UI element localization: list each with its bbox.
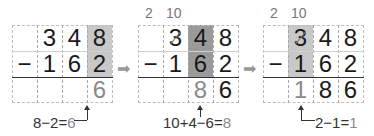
equation-expression: 8−2= bbox=[33, 114, 67, 131]
step3-equation: 2−1=1 bbox=[315, 114, 358, 131]
step2-carry-tens: 10 bbox=[166, 5, 182, 21]
equation-result: 1 bbox=[349, 114, 357, 131]
step3-carry-tens: 10 bbox=[291, 5, 307, 21]
grid-row-divider bbox=[138, 51, 239, 52]
grid-row-divider bbox=[263, 51, 364, 52]
arrow-right-icon: ➡ bbox=[117, 59, 130, 78]
step3-carry-hundreds: 2 bbox=[270, 5, 278, 21]
grid-divider bbox=[338, 25, 339, 103]
connector-line bbox=[301, 109, 315, 121]
subtraction-rule bbox=[138, 77, 239, 78]
grid-divider bbox=[87, 25, 88, 103]
grid-divider bbox=[62, 25, 63, 103]
connector-line bbox=[87, 109, 88, 120]
subtraction-rule bbox=[263, 77, 364, 78]
arrow-right-icon: ➡ bbox=[243, 59, 256, 78]
grid-divider bbox=[163, 25, 164, 103]
grid-divider bbox=[288, 25, 289, 103]
equation-expression: 2−1= bbox=[315, 114, 349, 131]
grid-row-divider bbox=[12, 51, 113, 52]
step2-carry-hundreds: 2 bbox=[145, 5, 153, 21]
grid-divider bbox=[37, 25, 38, 103]
step2-grid: 4 6 3 8 − 1 2 8 6 bbox=[138, 25, 239, 103]
connector-line bbox=[74, 120, 87, 121]
equation-expression: 10+4−6= bbox=[163, 114, 223, 131]
step1-grid: 8 2 3 4 − 1 6 6 bbox=[12, 25, 113, 103]
subtraction-rule bbox=[12, 77, 113, 78]
grid-divider bbox=[213, 25, 214, 103]
equation-result: 8 bbox=[223, 114, 231, 131]
grid-divider bbox=[313, 25, 314, 103]
step1-equation: 8−2=6 bbox=[33, 114, 76, 131]
equation-result: 6 bbox=[67, 114, 75, 131]
step2-equation: 10+4−6=8 bbox=[163, 114, 231, 131]
step3-grid: 3 1 4 8 − 6 2 1 8 6 bbox=[263, 25, 364, 103]
grid-divider bbox=[188, 25, 189, 103]
